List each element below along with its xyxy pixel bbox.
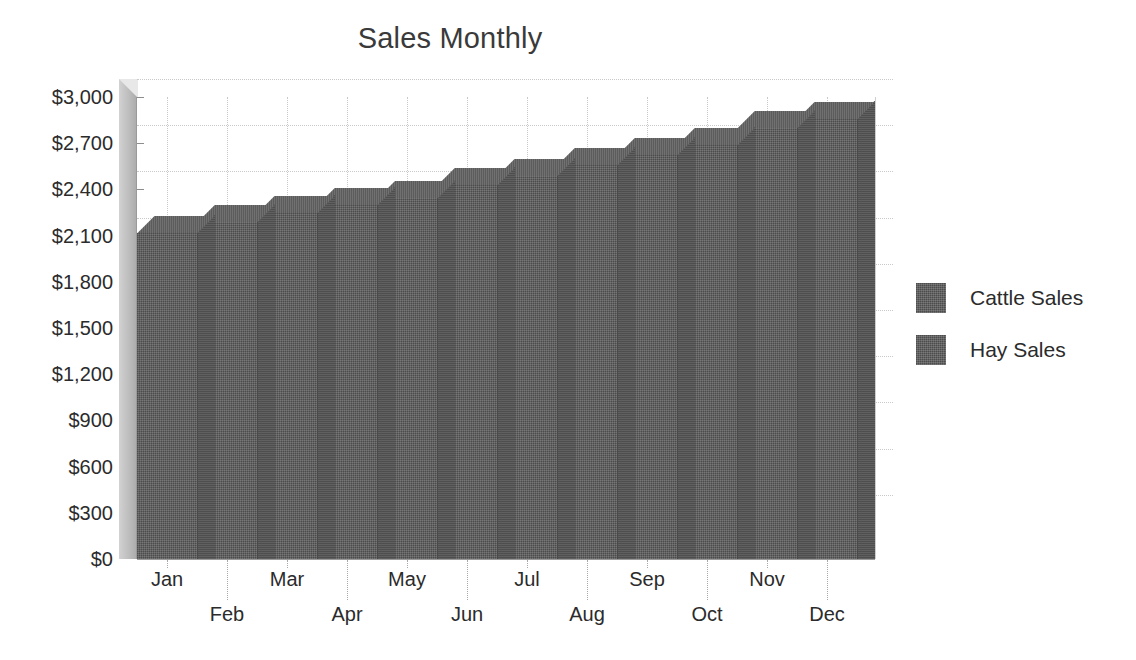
x-axis-tick-mark xyxy=(287,560,288,568)
y-axis-tick-label: $900 xyxy=(17,409,113,432)
x-axis-tick-label: Aug xyxy=(569,603,605,626)
x-axis-tick-mark xyxy=(467,560,468,600)
x-axis-tick-mark xyxy=(707,560,708,600)
y-axis-tick-label: $300 xyxy=(17,501,113,524)
bar-side-face xyxy=(437,180,455,559)
legend-label: Hay Sales xyxy=(970,338,1066,362)
y-axis-tick-label: $2,700 xyxy=(17,132,113,155)
legend-swatch-icon xyxy=(916,283,946,313)
chart-container: Sales Monthly $0$300$600$900$1,200$1,500… xyxy=(0,0,1136,660)
bar-side-face xyxy=(377,187,395,559)
x-axis-line xyxy=(137,559,875,560)
bar-side-face xyxy=(497,167,515,559)
chart-legend: Cattle Sales Hay Sales xyxy=(916,272,1083,376)
x-axis-tick-mark xyxy=(647,560,648,568)
legend-item-cattle-sales[interactable]: Cattle Sales xyxy=(916,272,1083,324)
bar-side-face xyxy=(557,158,575,559)
x-axis-tick-label: Oct xyxy=(691,603,722,626)
y-axis-tick-label: $3,000 xyxy=(17,86,113,109)
y-axis-tick-label: $1,800 xyxy=(17,270,113,293)
gridline xyxy=(137,79,893,80)
x-axis-tick-label: Nov xyxy=(749,568,785,591)
bar-front-face xyxy=(137,233,198,559)
x-axis-tick-mark xyxy=(587,560,588,600)
x-axis-tick-label: Jan xyxy=(151,568,183,591)
x-axis-tick-label: Feb xyxy=(210,603,244,626)
y-axis-tick-label: $600 xyxy=(17,455,113,478)
y-axis-tick-label: $1,500 xyxy=(17,317,113,340)
plot-area: $0$300$600$900$1,200$1,500$1,800$2,100$2… xyxy=(0,0,900,660)
bar-side-face xyxy=(677,137,695,559)
bar-side-face xyxy=(857,101,875,559)
x-axis-tick-mark xyxy=(767,560,768,568)
axis-3d-left-wall xyxy=(119,79,137,559)
x-axis-tick-label: Dec xyxy=(809,603,845,626)
legend-swatch-icon xyxy=(916,335,946,365)
x-axis-tick-mark xyxy=(347,560,348,600)
bar-series-group xyxy=(137,97,875,559)
x-axis-tick-label: Apr xyxy=(331,603,362,626)
x-axis-tick-mark xyxy=(407,560,408,568)
x-axis-tick-mark xyxy=(167,560,168,568)
plot-right-edge xyxy=(875,97,876,559)
y-axis-ticks: $0$300$600$900$1,200$1,500$1,800$2,100$2… xyxy=(8,0,113,660)
bar-side-face xyxy=(617,147,635,559)
bar-side-face xyxy=(257,204,275,559)
bar[interactable] xyxy=(137,233,197,559)
bar-side-face xyxy=(737,127,755,559)
bar-side-face xyxy=(797,110,815,559)
x-axis-tick-label: May xyxy=(388,568,426,591)
x-axis-tick-mark xyxy=(527,560,528,568)
y-axis-tick-label: $0 xyxy=(17,548,113,571)
x-axis-tick-label: Jul xyxy=(514,568,540,591)
x-axis-tick-label: Mar xyxy=(270,568,304,591)
y-axis-tick-label: $2,100 xyxy=(17,224,113,247)
y-axis-tick-label: $2,400 xyxy=(17,178,113,201)
x-axis-tick-mark xyxy=(827,560,828,600)
x-axis-tick-label: Sep xyxy=(629,568,665,591)
legend-label: Cattle Sales xyxy=(970,286,1083,310)
y-axis-tick-label: $1,200 xyxy=(17,363,113,386)
x-axis-tick-label: Jun xyxy=(451,603,483,626)
x-axis-tick-mark xyxy=(227,560,228,600)
legend-item-hay-sales[interactable]: Hay Sales xyxy=(916,324,1083,376)
bar-side-face xyxy=(317,195,335,560)
bar-side-face xyxy=(197,215,215,559)
